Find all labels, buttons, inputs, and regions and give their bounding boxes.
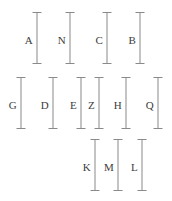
bar-label-l: L — [131, 162, 138, 173]
interval-bar-k[interactable] — [91, 139, 100, 191]
interval-bar-figure: ANCBGDEZHQKML — [0, 0, 172, 201]
bar-cap-bottom-l — [138, 190, 147, 191]
bar-stem-k — [95, 139, 96, 191]
bar-cap-bottom-k — [91, 190, 100, 191]
bar-row-3: KML — [0, 0, 172, 201]
bar-stem-l — [142, 139, 143, 191]
interval-bar-m[interactable] — [114, 139, 123, 191]
bar-cap-top-k — [91, 139, 100, 140]
bar-cap-top-m — [114, 139, 123, 140]
bar-label-k: K — [83, 162, 91, 173]
bar-cap-bottom-m — [114, 190, 123, 191]
bar-label-m: M — [104, 162, 114, 173]
interval-bar-l[interactable] — [138, 139, 147, 191]
bar-stem-m — [118, 139, 119, 191]
bar-cap-top-l — [138, 139, 147, 140]
